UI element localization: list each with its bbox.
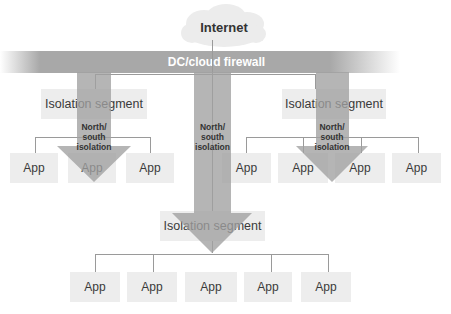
app-box: App	[185, 272, 237, 302]
connector-line	[95, 74, 316, 75]
app-box: App	[68, 153, 116, 183]
app-box: App	[244, 272, 292, 302]
firewall-bar: DC/cloud firewall	[0, 51, 451, 73]
connector-line	[150, 137, 151, 153]
arrow-label-center: North/ south isolation	[192, 122, 233, 152]
app-box: App	[301, 272, 351, 302]
arrow-label-left: North/ south isolation	[74, 122, 114, 152]
connector-line	[95, 254, 96, 272]
connector-line	[361, 137, 362, 153]
app-box: App	[392, 153, 441, 183]
connector-line	[95, 254, 329, 255]
internet-label: Internet	[182, 20, 266, 35]
connector-line	[418, 137, 419, 153]
app-box: App	[70, 272, 120, 302]
isolation-segment-center: Isolation segment	[160, 211, 265, 241]
firewall-label: DC/cloud firewall	[168, 55, 265, 69]
connector-line	[35, 137, 36, 153]
app-box: App	[278, 153, 328, 183]
connector-line	[271, 254, 272, 272]
app-box: App	[10, 153, 58, 183]
app-box: App	[127, 272, 177, 302]
connector-line	[246, 137, 247, 153]
connector-line	[328, 254, 329, 272]
isolation-segment-right: Isolation segment	[282, 89, 386, 119]
app-box: App	[335, 153, 385, 183]
app-box: App	[126, 153, 174, 183]
connector-line	[303, 137, 304, 153]
connector-line	[315, 74, 316, 89]
connector-line	[153, 254, 154, 272]
isolation-segment-left: Isolation segment	[41, 89, 147, 119]
arrow-label-right: North/ south isolation	[312, 122, 352, 152]
connector-line	[95, 74, 96, 89]
app-box: App	[222, 153, 271, 183]
